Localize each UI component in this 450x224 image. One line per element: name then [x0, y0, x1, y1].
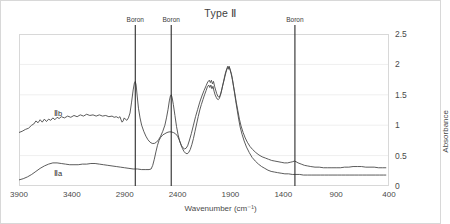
x-axis-tick-5: 1400	[274, 190, 292, 199]
boron-annotation-label-2: Boron	[286, 16, 303, 23]
series-line-0	[19, 66, 386, 168]
x-axis-tick-3: 2400	[169, 190, 187, 199]
y-axis-tick-3: 1.5	[395, 90, 407, 100]
x-axis-tick-2: 2900	[116, 190, 134, 199]
y-axis-title: Absorbance	[441, 110, 450, 153]
spectrum-svg	[19, 34, 389, 186]
x-axis-tick-4: 1900	[222, 190, 240, 199]
plot-area	[19, 34, 389, 186]
series-line-1	[19, 67, 386, 179]
x-axis-tick-7: 400	[382, 190, 395, 199]
y-axis-tick-4: 2	[395, 59, 400, 69]
chart-title: Type Ⅱ	[1, 7, 440, 19]
y-axis-tick-0: 0	[395, 181, 400, 191]
boron-annotation-label-1: Boron	[163, 16, 180, 23]
y-axis-tick-1: 0.5	[395, 151, 407, 161]
series-label-1: Ⅱa	[54, 168, 62, 177]
x-axis-tick-0: 3900	[10, 190, 28, 199]
x-axis-title: Wavenumber (cm⁻¹)	[1, 204, 440, 213]
boron-annotation-label-0: Boron	[127, 16, 144, 23]
x-axis-tick-6: 900	[329, 190, 342, 199]
series-label-0: Ⅱb	[54, 109, 62, 118]
x-axis-tick-1: 3400	[63, 190, 81, 199]
y-axis-tick-2: 1	[395, 120, 400, 130]
y-axis-tick-5: 2.5	[395, 29, 407, 39]
plot-frame	[20, 35, 389, 186]
